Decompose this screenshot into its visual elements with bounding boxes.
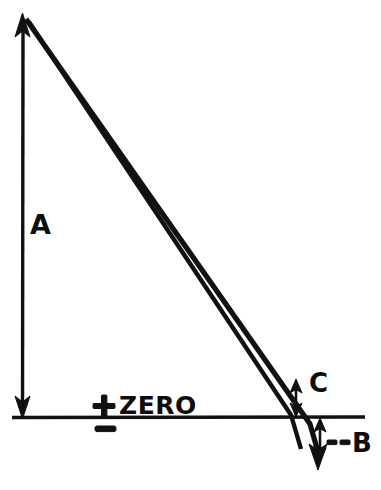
lower-sloping-line	[29, 22, 301, 449]
overshoot-indicator-group	[314, 418, 350, 462]
amplitude-shaft	[23, 26, 24, 410]
polarity-marks-group	[93, 395, 116, 432]
technical-diagram: A ZERO C B	[0, 0, 381, 490]
amplitude-arrow-group	[15, 13, 30, 419]
label-overshoot: B	[352, 428, 372, 458]
diagram-canvas: A ZERO C B	[0, 0, 381, 490]
label-gap: C	[309, 368, 328, 398]
label-baseline: ZERO	[119, 391, 197, 420]
label-amplitude: A	[30, 209, 51, 240]
overshoot-leader-dash	[327, 440, 337, 445]
plus-icon	[93, 395, 115, 417]
overshoot-leader-dash-2	[340, 440, 350, 445]
minus-icon	[95, 426, 116, 432]
